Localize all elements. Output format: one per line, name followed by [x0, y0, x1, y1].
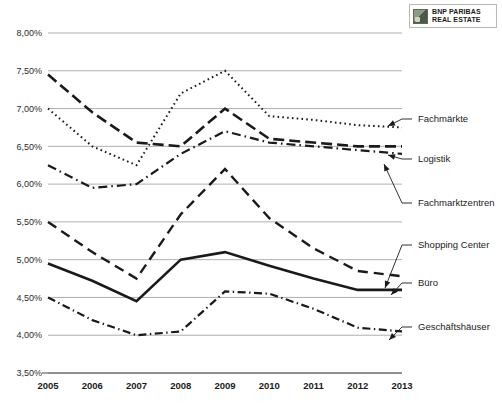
x-axis-tick-label-2012: 2012: [347, 380, 368, 391]
x-axis-tick-label-2005: 2005: [37, 380, 59, 391]
y-axis-tick-label: 6,50%: [16, 142, 42, 152]
y-axis-tick-label: 4,00%: [16, 330, 42, 340]
callout-arrow-head-icon: [385, 280, 390, 288]
series-label-shopping-center: Shopping Center: [418, 239, 489, 250]
series-line-shopping-center: [48, 169, 402, 279]
x-axis-tick-label-2006: 2006: [82, 380, 103, 391]
y-axis-tick-label: 7,50%: [16, 66, 42, 76]
y-axis-tick-label: 7,00%: [16, 104, 42, 114]
y-axis-tick-label: 5,50%: [16, 217, 42, 227]
y-axis-ticks: 3,50%4,00%4,50%5,00%5,50%6,00%6,50%7,00%…: [16, 28, 42, 378]
callout-leader-line: [385, 245, 412, 288]
series-label-fachmarktzentren: Fachmarktzentren: [418, 197, 495, 208]
data-series-layer: [48, 71, 402, 335]
y-axis-tick-label: 5,00%: [16, 255, 42, 265]
y-axis-tick-label: 6,00%: [16, 179, 42, 189]
callout-leader-line: [384, 164, 412, 203]
chart-container: BNP PARIBAS REAL ESTATE 3,50%4,00%4,50%5…: [0, 0, 502, 411]
y-axis-tick-label: 3,50%: [16, 368, 42, 378]
x-axis-tick-label-2007: 2007: [126, 380, 147, 391]
series-label-logistik: Logistik: [418, 153, 450, 164]
y-axis-tick-label: 8,00%: [16, 28, 42, 38]
line-chart-plot: 3,50%4,00%4,50%5,00%5,50%6,00%6,50%7,00%…: [0, 0, 502, 411]
x-axis-tick-label-2013: 2013: [391, 380, 412, 391]
x-axis-ticks: 200520062007200820092010201120122013: [37, 380, 412, 391]
y-gridlines: [48, 33, 402, 373]
series-line-logistik: [48, 75, 402, 147]
x-axis-tick-label-2008: 2008: [170, 380, 191, 391]
series-line-gesch-ftsh-user: [48, 291, 402, 335]
callout-arrow-head-icon: [388, 154, 396, 160]
series-label-fachm-rkte: Fachmärkte: [418, 113, 468, 124]
series-label-b-ro: Büro: [418, 277, 438, 288]
y-axis-tick-label: 4,50%: [16, 293, 42, 303]
series-line-fachmarktzentren: [48, 131, 402, 188]
x-axis-tick-label-2011: 2011: [303, 380, 324, 391]
x-axis-tick-label-2009: 2009: [214, 380, 235, 391]
series-label-gesch-ftsh-user: Geschäftshäuser: [418, 321, 490, 332]
series-callout-layer: FachmärkteLogistikFachmarktzentrenShoppi…: [384, 113, 495, 340]
x-axis-tick-label-2010: 2010: [259, 380, 280, 391]
